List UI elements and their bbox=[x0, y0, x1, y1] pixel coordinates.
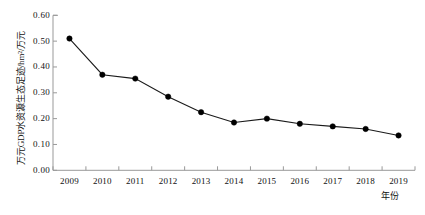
data-point bbox=[396, 133, 401, 138]
data-point bbox=[330, 124, 335, 129]
axis-lines bbox=[53, 15, 415, 170]
axis-tick-marks bbox=[53, 15, 415, 170]
data-point bbox=[231, 120, 236, 125]
data-point bbox=[198, 109, 203, 114]
data-point bbox=[264, 116, 269, 121]
data-point bbox=[363, 126, 368, 131]
data-point bbox=[165, 94, 170, 99]
data-point bbox=[67, 36, 72, 41]
data-point bbox=[133, 76, 138, 81]
line-chart: 万元GDP水资源生态足迹/hm²/万元 0.000.100.200.300.40… bbox=[0, 0, 425, 215]
plot-area bbox=[0, 0, 425, 215]
data-point bbox=[100, 72, 105, 77]
data-point bbox=[297, 121, 302, 126]
data-point-markers bbox=[67, 36, 401, 138]
